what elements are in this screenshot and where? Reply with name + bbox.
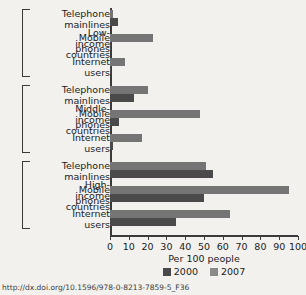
category-label-line: Mobile [24,33,110,44]
bar-2000[interactable] [110,42,111,50]
x-axis-tick-label: 30 [160,241,172,252]
x-axis-tick [279,236,280,240]
group-bracket [22,9,30,77]
plot-area [110,8,298,235]
x-axis-tick-label: 50 [198,241,210,252]
category-label-line: Telephone [24,161,110,172]
category-label-line: users [24,220,110,231]
bar-group-row [110,132,298,156]
bar-group-row [110,108,298,132]
x-axis-tick-label: 90 [273,241,285,252]
category-label: Mobilephones [24,33,110,54]
x-axis-title: Per 100 people [110,253,298,264]
chart-figure: Low-incomecountriesMiddle-incomecountrie… [0,0,306,295]
category-label: Internetusers [24,209,110,230]
category-label: Telephonemainlines [24,9,110,30]
x-axis-tick [242,236,243,240]
category-label-line: Mobile [24,109,110,120]
category-label: Telephonemainlines [24,161,110,182]
x-axis-tick-label: 0 [107,241,113,252]
bar-group-row [110,208,298,232]
category-label: Mobilephones [24,185,110,206]
category-label-line: Mobile [24,185,110,196]
bar-2007[interactable] [110,186,289,194]
group-bracket [22,161,30,229]
bar-2007[interactable] [110,210,230,218]
bar-group-row [110,160,298,184]
category-label: Mobilephones [24,109,110,130]
legend-item-2000[interactable]: 2000 [163,266,198,277]
category-label-line: Internet [24,57,110,68]
x-axis-tick [110,236,111,240]
x-axis-tick-label: 20 [142,241,154,252]
x-axis-tick-label: 100 [289,241,306,252]
category-label-line: mainlines [24,96,110,107]
legend-label-2000: 2000 [174,266,198,277]
bar-2000[interactable] [110,218,176,226]
x-axis-tick [298,236,299,240]
category-label-line: phones [24,196,110,207]
bar-2007[interactable] [110,162,206,170]
category-label-line: mainlines [24,20,110,31]
bar-2007[interactable] [110,134,142,142]
category-label-line: phones [24,44,110,55]
bar-group-row [110,32,298,56]
x-axis-tick [185,236,186,240]
bar-group-row [110,84,298,108]
category-label-line: Internet [24,133,110,144]
category-label-line: users [24,68,110,79]
legend-item-2007[interactable]: 2007 [210,266,245,277]
category-label-line: Telephone [24,85,110,96]
bar-2000[interactable] [110,142,113,150]
bar-2007[interactable] [110,34,153,42]
category-label-line: mainlines [24,172,110,183]
bar-2007[interactable] [110,58,125,66]
legend-swatch-2007 [210,268,218,276]
bar-2007[interactable] [110,10,113,18]
x-axis-tick [223,236,224,240]
bar-2000[interactable] [110,170,213,178]
x-axis-tick [260,236,261,240]
bar-2000[interactable] [110,18,118,26]
x-axis-tick [166,236,167,240]
category-label-line: phones [24,120,110,131]
x-axis-tick [204,236,205,240]
legend-swatch-2000 [163,268,171,276]
group-bracket [22,85,30,153]
x-axis-tick-label: 80 [254,241,266,252]
bar-2007[interactable] [110,110,200,118]
legend-label-2007: 2007 [221,266,245,277]
category-label-line: Internet [24,209,110,220]
category-label-line: users [24,144,110,155]
bar-2007[interactable] [110,86,148,94]
x-axis-tick [129,236,130,240]
bar-2000[interactable] [110,194,204,202]
bar-group-row [110,184,298,208]
category-label: Telephonemainlines [24,85,110,106]
bar-2000[interactable] [110,118,119,126]
x-axis-tick-label: 40 [179,241,191,252]
bar-group-row [110,56,298,80]
x-axis-tick-label: 60 [217,241,229,252]
category-label: Internetusers [24,57,110,78]
x-axis-tick-label: 10 [123,241,135,252]
chart-legend: 2000 2007 [110,266,298,277]
category-label-column: TelephonemainlinesMobilephonesInternetus… [22,0,110,236]
bar-2000[interactable] [110,94,134,102]
x-axis-tick-label: 70 [236,241,248,252]
x-axis-tick [148,236,149,240]
source-citation[interactable]: http://dx.doi.org/10.1596/978-0-8213-785… [2,283,189,292]
category-label: Internetusers [24,133,110,154]
bar-group-row [110,8,298,32]
category-label-line: Telephone [24,9,110,20]
bar-2000[interactable] [110,66,111,74]
